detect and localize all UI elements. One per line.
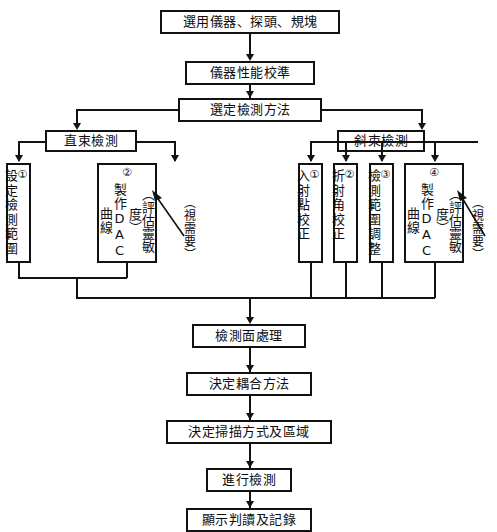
node-straight-beam-label: 直束檢測 [64, 134, 118, 148]
step-angle-3: ③ 檢測範圍調整 [369, 163, 394, 263]
step-angle-3-label: 檢測範圍調整 [367, 169, 380, 256]
node-scan-mode-area: 決定掃描方式及區域 [166, 420, 332, 444]
arrow-merge-to-surface [246, 317, 254, 324]
merge-angle1-drop [310, 263, 312, 298]
node-select-equipment: 選用儀器、探頭、規塊 [160, 10, 340, 34]
node-surface-treatment: 檢測面處理 [192, 324, 306, 348]
step-straight-1: ① 設定檢測範圍 [6, 163, 31, 263]
node-surface-treatment-label: 檢測面處理 [215, 329, 283, 343]
node-select-equipment-label: 選用儀器、探頭、規塊 [183, 15, 318, 29]
step-straight-2-main-text: 製作 [112, 183, 127, 211]
node-calibrate-performance: 儀器性能校準 [185, 61, 315, 85]
merge-straight-bus-drop [76, 277, 78, 297]
step-angle-4-number: ④ [406, 167, 462, 178]
node-perform-inspection-label: 進行檢測 [222, 473, 276, 487]
merge-straight-bus [18, 277, 127, 279]
step-angle-4-main: 製作DAC曲線 [407, 168, 434, 261]
step-angle-4-main-text: 製作 [419, 183, 434, 211]
node-couplant-method: 決定耦合方法 [186, 372, 312, 396]
merge-straight1-drop [18, 263, 20, 278]
node-straight-beam: 直束檢測 [45, 130, 137, 152]
node-scan-mode-area-label: 決定掃描方式及區域 [188, 425, 310, 439]
node-calibrate-performance-label: 儀器性能校準 [210, 66, 291, 80]
merge-main-bus [76, 297, 435, 299]
step-straight-2-tail: 曲線 [99, 207, 114, 235]
annotation-straight: （視需要） [182, 196, 194, 261]
arrow-angle-step1 [307, 155, 315, 162]
straight-fan-bus [18, 141, 45, 143]
connector-equipment-to-calibrate [249, 34, 251, 56]
step-angle-2-number: ② [344, 169, 355, 180]
step-straight-2-number: ② [99, 167, 155, 178]
angle-fan-bus [310, 141, 478, 143]
merge-straight2-drop [126, 263, 128, 278]
node-perform-inspection: 進行檢測 [206, 468, 292, 492]
merge-angle3-drop [381, 263, 383, 298]
annotation-angle: （視需要） [470, 196, 482, 261]
step-straight-2-latin: DAC [112, 211, 127, 259]
arrow-angle-step4 [431, 155, 439, 162]
flowchart-canvas: 選用儀器、探頭、規塊 儀器性能校準 選定檢測方法 直束檢測 斜束檢測 ① 設定檢… [0, 0, 497, 532]
merge-angle2-drop [345, 263, 347, 298]
arrow-to-straight-beam [73, 123, 81, 130]
step-angle-2: ② 折射角校正 [333, 163, 358, 263]
step-straight-2-main: 製作DAC曲線 [100, 168, 127, 261]
arrow-surface-to-couplant [246, 365, 254, 372]
arrow-angle-step2 [342, 155, 350, 162]
step-angle-1-number: ① [309, 169, 320, 180]
arrow-angle-step3 [378, 155, 386, 162]
arrow-scan-to-perform [246, 461, 254, 468]
step-straight-1-number: ① [17, 169, 28, 180]
arrow-to-angle-beam [418, 123, 426, 130]
node-display-record-label: 顯示判讀及記錄 [202, 513, 297, 527]
arrow-equipment-to-calibrate [246, 54, 254, 61]
step-angle-1: ① 入射點校正 [298, 163, 323, 263]
merge-angle4-drop [434, 263, 436, 298]
step-straight-2: ② （評估靈敏度） 製作DAC曲線 [97, 163, 157, 263]
node-couplant-method-label: 決定耦合方法 [209, 377, 290, 391]
bus-method-right [321, 109, 422, 111]
step-angle-1-label: 入射點校正 [296, 169, 309, 242]
step-straight-1-label: 設定檢測範圍 [4, 169, 17, 256]
straight-fan-bus-right [137, 141, 175, 143]
step-angle-3-number: ③ [380, 169, 391, 180]
arrow-calibrate-to-method [246, 91, 254, 98]
node-select-method: 選定檢測方法 [178, 98, 322, 122]
arrow-straight-step1 [15, 155, 23, 162]
step-angle-2-label: 折射角校正 [331, 169, 344, 242]
arrow-straight-step2 [171, 155, 179, 162]
arrow-couplant-to-scan [246, 413, 254, 420]
step-angle-4-latin: DAC [419, 211, 434, 259]
node-select-method-label: 選定檢測方法 [210, 103, 291, 117]
bus-method-left [76, 109, 179, 111]
arrow-perform-to-display [246, 501, 254, 508]
step-angle-4-tail: 曲線 [406, 207, 421, 235]
